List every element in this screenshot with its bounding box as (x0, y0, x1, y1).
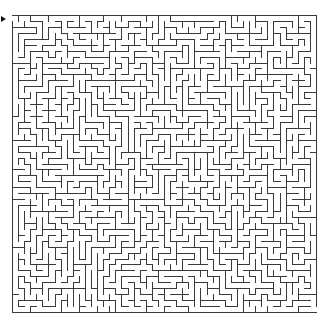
maze-walls (13, 16, 317, 313)
entrance-arrow-icon (1, 16, 6, 22)
maze-grid[interactable] (12, 15, 317, 313)
maze-board[interactable] (12, 15, 317, 313)
